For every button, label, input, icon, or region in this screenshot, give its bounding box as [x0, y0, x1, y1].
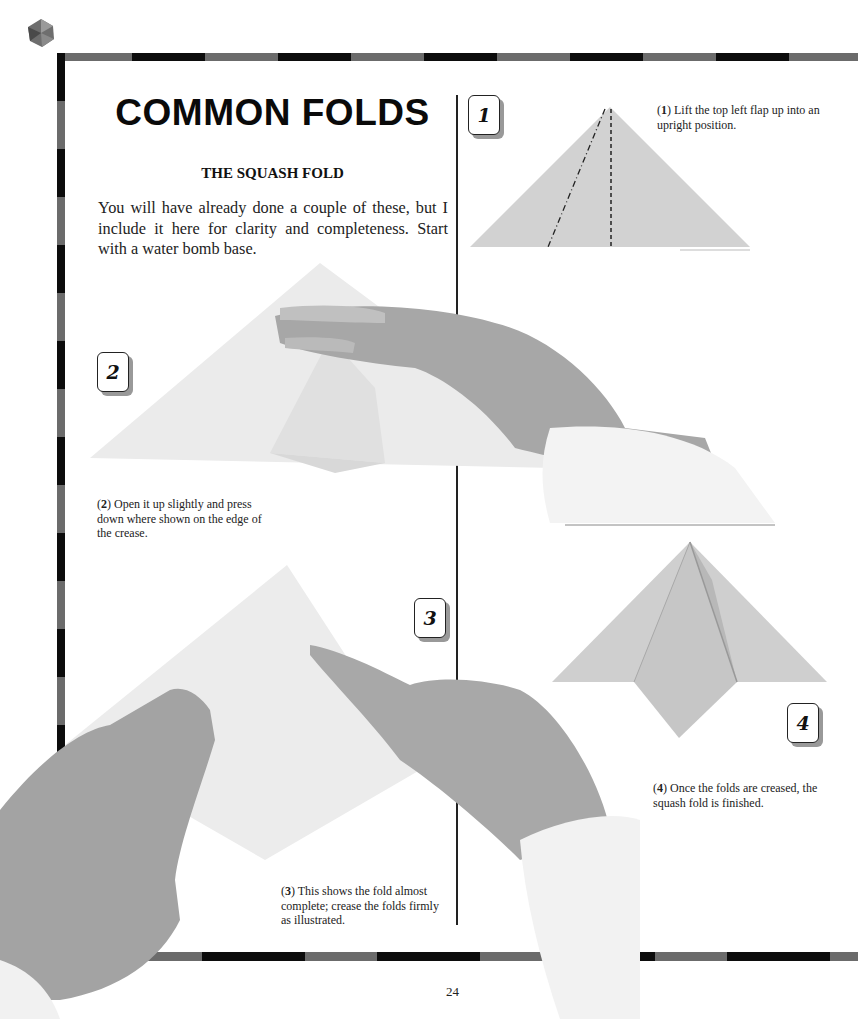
step-1-caption: (1) Lift the top left flap up into an up… — [657, 103, 827, 132]
step-1-badge: 1 — [468, 95, 500, 135]
step-2-caption: (2) Open it up slightly and press down w… — [97, 497, 277, 541]
step-3-badge: 3 — [414, 598, 446, 638]
step-2-badge: 2 — [97, 352, 129, 392]
step-2-photo — [85, 258, 785, 533]
step-3-photo — [0, 560, 640, 1019]
step-4-badge: 4 — [787, 703, 819, 743]
page-title: COMMON FOLDS — [100, 92, 445, 134]
step-4-caption: (4) Once the folds are creased, the squa… — [653, 781, 828, 810]
page-frame-top — [59, 53, 858, 61]
step-2-number: 2 — [106, 361, 119, 383]
step-3-number: 3 — [423, 607, 436, 629]
section-heading: THE SQUASH FOLD — [100, 165, 445, 182]
step-1-number: 1 — [477, 104, 490, 126]
step-4-diagram — [552, 540, 827, 740]
origami-logo-icon — [26, 18, 56, 48]
intro-paragraph: You will have already done a couple of t… — [98, 198, 448, 260]
step-4-number: 4 — [796, 712, 809, 734]
step-3-caption: (3) This shows the fold almost complete;… — [281, 884, 441, 928]
page-number: 24 — [446, 984, 459, 1000]
